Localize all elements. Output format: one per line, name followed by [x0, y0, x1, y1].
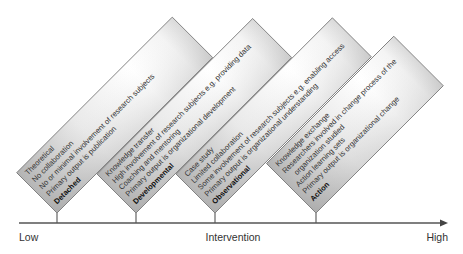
axis-label-intervention: Intervention	[206, 231, 261, 243]
axis-ticks	[57, 213, 316, 223]
arrow-right-icon	[440, 220, 448, 227]
axis-label-low: Low	[19, 231, 39, 243]
intervention-spectrum-diagram: Theoretical No collaboration No or minim…	[0, 0, 463, 254]
axis-label-high: High	[426, 231, 448, 243]
